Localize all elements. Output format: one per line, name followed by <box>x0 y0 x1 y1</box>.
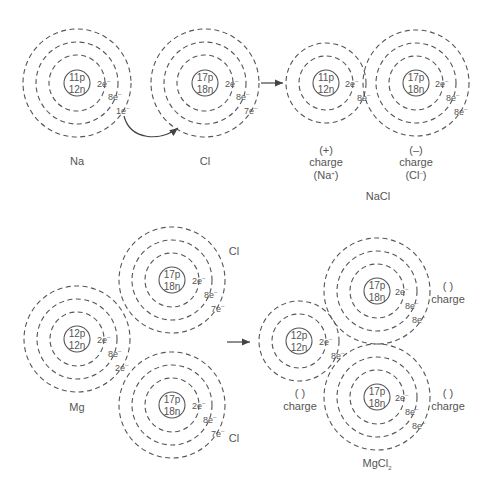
svg-text:2e–: 2e– <box>395 392 409 403</box>
svg-text:12p: 12p <box>69 328 86 339</box>
svg-text:7e–: 7e– <box>211 303 225 314</box>
na-shell-2: 8e <box>108 92 118 102</box>
svg-text:8e–: 8e– <box>108 348 122 359</box>
svg-text:charge: charge <box>431 400 465 412</box>
svg-text:2e–: 2e– <box>345 78 359 89</box>
mg-ion: 12p 12n 2e– 8e– ( ) charge <box>259 301 345 412</box>
svg-text:8e–: 8e– <box>108 91 122 102</box>
svg-text:2e–: 2e– <box>97 334 111 345</box>
svg-text:8e–: 8e– <box>412 420 426 431</box>
mg-atom: 12p 12n 2e– 8e– 2e– Mg <box>24 286 130 413</box>
svg-text:18n: 18n <box>369 292 386 303</box>
svg-text:2e–: 2e– <box>395 286 409 297</box>
cl-ion: 17p 18n 2e– 8e– 8e– (–) charge (Cl–) <box>363 30 469 181</box>
svg-text:(Na+): (Na+) <box>314 169 339 181</box>
svg-text:charge: charge <box>431 293 465 305</box>
na-neutrons: 12n <box>69 84 86 95</box>
svg-text:2e–: 2e– <box>192 400 206 411</box>
ionic-bonding-diagram: 11p 12n 2e– 8e– 1e– Na 17p 18n 2e– 8e– 7… <box>0 0 491 495</box>
svg-text:2e–: 2e– <box>115 362 129 373</box>
cl-ion-bottom-charge-blank: ( ) <box>443 387 453 399</box>
svg-text:12n: 12n <box>291 342 308 353</box>
svg-text:18n: 18n <box>164 406 181 417</box>
na-ion: 11p 12n 2e– 8e– (+) charge (Na+) <box>286 43 371 181</box>
svg-text:17p: 17p <box>164 394 181 405</box>
svg-text:2e–: 2e– <box>225 78 239 89</box>
cl-atom-bottom: 17p 18n 2e– 8e– 7e– Cl <box>119 352 239 458</box>
svg-text:12n: 12n <box>318 84 335 95</box>
svg-text:7e–: 7e– <box>244 105 258 116</box>
mgcl2-label: MgCl2 <box>362 457 392 471</box>
svg-text:8e–: 8e– <box>412 314 426 325</box>
svg-text:7e–: 7e– <box>211 428 225 439</box>
cl-ion-charge-sign: (–) <box>409 144 422 156</box>
svg-text:17p: 17p <box>164 269 181 280</box>
svg-text:charge: charge <box>283 400 317 412</box>
cl-ion-bottom: 17p 18n 2e– 8e– 8e– ( ) charge <box>324 344 465 450</box>
cl-protons: 17p <box>197 72 214 83</box>
svg-text:Cl: Cl <box>229 245 239 257</box>
na-label: Na <box>70 155 85 167</box>
svg-text:8e–: 8e– <box>405 300 419 311</box>
cl-ion-top: 17p 18n 2e– 8e– 8e– ( ) charge <box>324 238 465 344</box>
svg-text:(Cl–): (Cl–) <box>405 169 426 181</box>
svg-text:8e–: 8e– <box>331 350 345 361</box>
mg-ion-charge-blank: ( ) <box>295 387 305 399</box>
electron-transfer-arrow <box>124 116 178 137</box>
svg-text:8e–: 8e– <box>236 91 250 102</box>
svg-text:12n: 12n <box>69 340 86 351</box>
mg-label: Mg <box>69 401 84 413</box>
cl-ion-top-charge-blank: ( ) <box>443 280 453 292</box>
svg-text:8e–: 8e– <box>446 92 460 103</box>
svg-text:18n: 18n <box>369 398 386 409</box>
na-shell-3: 1e <box>116 106 126 116</box>
na-ion-charge-sign: (+) <box>319 144 333 156</box>
svg-text:2e–: 2e– <box>319 336 333 347</box>
svg-text:8e–: 8e– <box>203 414 217 425</box>
svg-text:12p: 12p <box>291 330 308 341</box>
cl-atom: 17p 18n 2e– 8e– 7e– Cl <box>151 29 259 167</box>
na-shell-1: 2e <box>97 79 107 89</box>
svg-text:8e–: 8e– <box>405 406 419 417</box>
svg-text:17p: 17p <box>369 386 386 397</box>
svg-text:1e–: 1e– <box>116 105 130 116</box>
cl-neutrons: 18n <box>197 84 214 95</box>
na-protons: 11p <box>69 72 85 83</box>
svg-text:charge: charge <box>309 156 343 168</box>
svg-text:2e–: 2e– <box>97 78 111 89</box>
svg-text:2e–: 2e– <box>435 78 449 89</box>
na-atom: 11p 12n 2e– 8e– 1e– Na <box>23 29 131 167</box>
svg-text:Cl: Cl <box>229 432 239 444</box>
cl-atom-top: 17p 18n 2e– 8e– 7e– Cl <box>119 227 239 333</box>
cl-label: Cl <box>200 155 210 167</box>
nacl-label: NaCl <box>366 190 390 202</box>
svg-text:8e–: 8e– <box>204 289 218 300</box>
svg-text:18n: 18n <box>408 84 425 95</box>
svg-text:17p: 17p <box>369 280 386 291</box>
svg-text:2e–: 2e– <box>192 275 206 286</box>
svg-text:8e–: 8e– <box>454 106 468 117</box>
svg-text:11p: 11p <box>318 72 334 83</box>
svg-text:charge: charge <box>399 156 433 168</box>
svg-text:18n: 18n <box>164 281 181 292</box>
svg-text:17p: 17p <box>408 72 425 83</box>
